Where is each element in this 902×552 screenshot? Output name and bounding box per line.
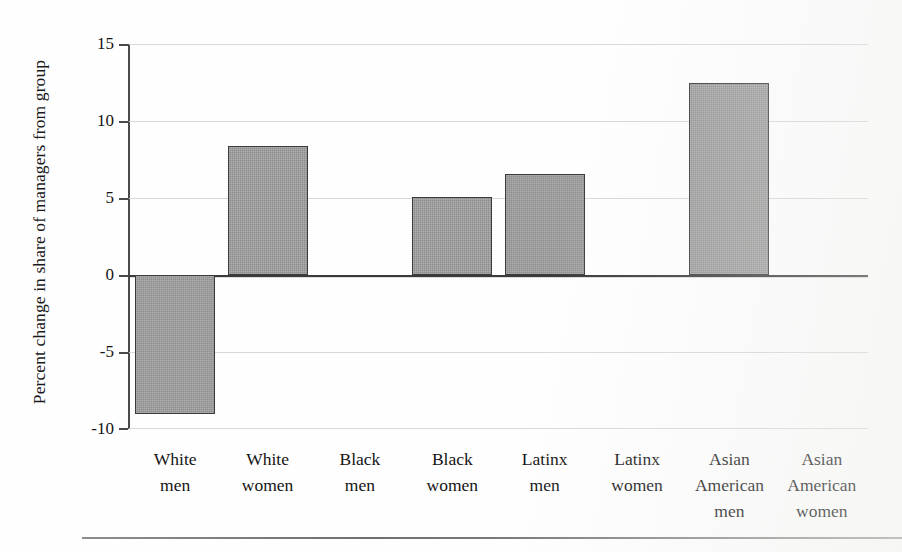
bottom-rule-divider	[82, 537, 902, 539]
y-axis-tick-labels: 15 10 5 0 -5 -10	[62, 0, 114, 552]
y-tick-mark-neg10	[119, 428, 128, 430]
y-tick-mark-0	[119, 275, 128, 277]
x-tick-label-line: White	[221, 446, 313, 472]
y-tick-mark-neg5	[119, 352, 128, 354]
gridline-15	[129, 44, 868, 45]
bar-black-women	[412, 197, 492, 275]
x-tick-label-line: American	[683, 472, 775, 498]
x-tick-label-line: Black	[406, 446, 498, 472]
bar-asian-american-men	[689, 83, 769, 276]
x-tick-label-line: women	[406, 472, 498, 498]
x-tick-label-line: Asian	[683, 446, 775, 472]
x-tick-label-asian-american-women: AsianAmericanwomen	[776, 446, 868, 524]
y-axis-title: Percent change in share of managers from…	[26, 12, 52, 452]
plot-area	[129, 44, 868, 429]
gridline-zero	[129, 275, 868, 277]
y-tick-mark-5	[119, 198, 128, 200]
x-tick-label-line: men	[314, 472, 406, 498]
x-tick-label-line: Black	[314, 446, 406, 472]
x-tick-label-line: men	[129, 472, 221, 498]
x-tick-label-white-men: Whitemen	[129, 446, 221, 498]
x-tick-label-line: Asian	[776, 446, 868, 472]
x-tick-label-line: Latinx	[499, 446, 591, 472]
y-tick-mark-10	[119, 121, 128, 123]
x-tick-label-line: men	[683, 498, 775, 524]
y-tick-label-neg5: -5	[74, 343, 114, 360]
x-tick-label-line: women	[776, 498, 868, 524]
x-tick-label-line: men	[499, 472, 591, 498]
x-tick-label-line: American	[776, 472, 868, 498]
x-tick-label-black-women: Blackwomen	[406, 446, 498, 498]
y-tick-label-neg10: -10	[74, 420, 114, 437]
x-tick-label-white-women: Whitewomen	[221, 446, 313, 498]
x-tick-label-asian-american-men: AsianAmericanmen	[683, 446, 775, 524]
x-axis-tick-labels: WhitemenWhitewomenBlackmenBlackwomenLati…	[129, 446, 868, 536]
bar-chart-figure: Percent change in share of managers from…	[0, 0, 902, 552]
gridline-neg10	[129, 428, 868, 429]
x-tick-label-line: White	[129, 446, 221, 472]
y-tick-label-0: 0	[74, 266, 114, 283]
x-tick-label-latinx-men: Latinxmen	[499, 446, 591, 498]
x-tick-label-line: Latinx	[591, 446, 683, 472]
y-tick-label-10: 10	[74, 112, 114, 129]
x-tick-label-line: women	[221, 472, 313, 498]
bar-latinx-men	[505, 174, 585, 275]
gridline-neg5	[129, 352, 868, 353]
x-tick-label-latinx-women: Latinxwomen	[591, 446, 683, 498]
y-tick-label-5: 5	[74, 189, 114, 206]
y-tick-label-15: 15	[74, 35, 114, 52]
y-tick-mark-15	[119, 44, 128, 46]
x-tick-label-line: women	[591, 472, 683, 498]
bar-white-women	[228, 146, 308, 275]
bar-white-men	[135, 275, 215, 414]
x-tick-label-black-men: Blackmen	[314, 446, 406, 498]
